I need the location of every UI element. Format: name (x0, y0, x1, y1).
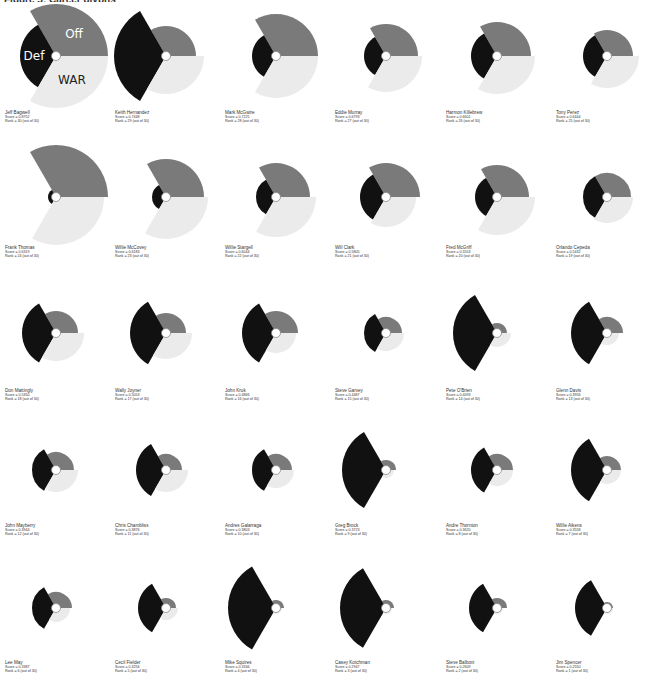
player-label: Jim SpencerScore = 0.2550Rank = 1 (out o… (556, 660, 588, 682)
radial-glyph (330, 0, 439, 693)
glyph-grid: OffDefWARJeff BagwellScore = 0.8752Rank … (0, 0, 653, 693)
player-label: Lee MayScore = 0.3387Rank = 6 (out of 30… (5, 660, 37, 682)
player-components (556, 673, 588, 682)
player-label: Cecil FielderScore = 0.3256Rank = 5 (out… (115, 660, 147, 682)
player-rank: Rank = 4 (out of 30) (225, 669, 257, 673)
radial-glyph (441, 0, 550, 693)
player-rank: Rank = 1 (out of 30) (556, 669, 588, 673)
player-rank: Rank = 2 (out of 30) (446, 669, 478, 673)
player-components (446, 673, 478, 682)
radial-glyph (220, 0, 329, 693)
player-components (225, 673, 257, 682)
player-rank: Rank = 5 (out of 30) (115, 669, 147, 673)
radial-glyph (551, 0, 653, 693)
radial-glyph (110, 0, 219, 693)
player-components (5, 673, 37, 682)
player-label: Steve BalboniScore = 0.2609Rank = 2 (out… (446, 660, 478, 682)
player-components (335, 673, 370, 682)
player-rank: Rank = 3 (out of 30) (335, 669, 370, 673)
player-rank: Rank = 6 (out of 30) (5, 669, 37, 673)
radial-glyph (0, 0, 109, 693)
player-label: Mike SquiresScore = 0.3166Rank = 4 (out … (225, 660, 257, 682)
player-label: Casey KotchmanScore = 0.2947Rank = 3 (ou… (335, 660, 370, 682)
player-components (115, 673, 147, 682)
